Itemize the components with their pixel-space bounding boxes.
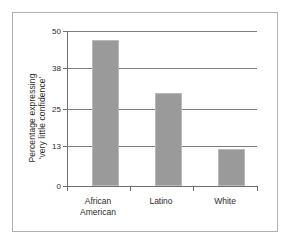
y-tick-label-38: 38	[35, 64, 61, 73]
y-tick-label-13: 13	[35, 142, 61, 151]
bar-white	[218, 149, 245, 186]
x-category-line-1: White	[188, 196, 262, 207]
x-tick-mark-3	[257, 187, 258, 191]
x-tick-mark-0	[67, 187, 68, 191]
x-axis-spine	[67, 186, 258, 187]
x-category-line-1: Latino	[124, 196, 198, 207]
bar-chart-figure: Percentage expressing 'very little confi…	[0, 0, 291, 245]
x-category-line-2: American	[61, 207, 135, 218]
y-tick-label-0: 0	[35, 182, 61, 191]
y-axis-title: Percentage expressing 'very little confi…	[27, 33, 47, 203]
x-category-label-latino: Latino	[124, 196, 198, 207]
y-axis-title-line-2: 'very little confidence'	[37, 33, 47, 203]
y-axis-title-line-1: Percentage expressing	[27, 33, 37, 203]
gridline-50	[67, 31, 257, 32]
y-tick-label-25: 25	[35, 105, 61, 114]
x-tick-mark-2	[193, 187, 194, 191]
bar-latino	[155, 93, 182, 186]
plot-area	[67, 31, 257, 186]
x-category-label-white: White	[188, 196, 262, 207]
y-tick-label-50: 50	[35, 27, 61, 36]
bar-african-american	[92, 40, 119, 186]
x-tick-mark-1	[130, 187, 131, 191]
